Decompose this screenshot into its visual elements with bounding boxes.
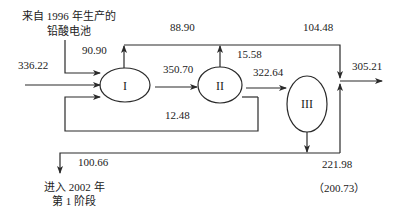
value-input-main: 336.22	[18, 59, 48, 72]
value-output-right: 305.21	[352, 60, 382, 73]
value-recycle: 12.48	[165, 109, 190, 122]
value-from-III-down: 221.98	[322, 158, 352, 171]
node-II-label: II	[216, 79, 224, 94]
value-I-to-II: 350.70	[163, 63, 193, 76]
value-from-III-paren: （200.73）	[313, 182, 365, 195]
value-II-to-III: 322.64	[253, 66, 283, 79]
node-III-label: III	[301, 97, 313, 112]
value-top-from-I: 88.90	[170, 21, 195, 34]
line-top-collector	[124, 45, 340, 78]
source-text-line2: 铅酸电池	[47, 25, 91, 38]
output-text-line1: 进入 2002 年	[44, 181, 105, 194]
value-input-source: 90.90	[82, 44, 107, 57]
node-I-label: I	[123, 79, 127, 94]
value-up-from-II: 15.58	[237, 48, 262, 61]
source-text-line1: 来自 1996 年生产的	[22, 10, 116, 23]
value-to-2002: 100.66	[78, 156, 108, 169]
value-top-right: 104.48	[303, 21, 333, 34]
output-text-line2: 第 1 阶段	[52, 195, 96, 208]
